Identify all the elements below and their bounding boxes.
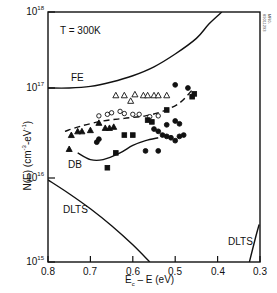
circle-filled-marker [156, 129, 161, 134]
plot-frame [48, 12, 260, 262]
plot-area [0, 0, 277, 293]
x-axis-label: Ec – E (eV) [125, 274, 174, 287]
circle-filled-marker [177, 121, 182, 126]
circle-filled-marker [94, 140, 99, 145]
circle-open-marker [97, 114, 101, 118]
circle-open-marker [131, 112, 135, 116]
curves [48, 12, 259, 262]
dlts-left-label: DLTS [63, 204, 88, 215]
square-filled-marker [192, 92, 197, 97]
circle-open-marker [122, 111, 126, 115]
triangle-open-marker [113, 92, 119, 98]
x-tick-0.3: 0.3 [245, 266, 275, 277]
triangle-filled-marker [68, 132, 74, 138]
circle-filled-marker [186, 86, 191, 91]
x-tick-0.4: 0.4 [203, 266, 233, 277]
y-tick-1e18: 1018 [4, 5, 44, 17]
triangle-filled-marker [79, 128, 85, 134]
axis-ticks [48, 12, 260, 262]
x-tick-0.8: 0.8 [33, 266, 63, 277]
figure-id: MR0-89011293 [262, 14, 272, 32]
circle-filled-marker [173, 138, 178, 143]
circle-open-marker [118, 109, 122, 113]
fe-curve-label: FE [71, 72, 84, 83]
triangle-filled-marker [87, 127, 93, 133]
circle-filled-marker [156, 149, 161, 154]
triangle-open-marker [128, 98, 134, 104]
circle-filled-marker [181, 133, 186, 138]
circle-filled-marker [164, 122, 169, 127]
square-filled-marker [150, 120, 155, 125]
db-curve-label: DB [68, 159, 82, 170]
square-filled-marker [105, 165, 110, 170]
triangle-open-marker [145, 92, 151, 98]
square-filled-marker [122, 133, 127, 138]
triangle-open-marker [132, 91, 138, 97]
circle-open-marker [105, 112, 109, 116]
y-tick-1e17: 1017 [4, 81, 44, 93]
triangle-filled-marker [111, 124, 117, 130]
dlts-right-label: DLTS [228, 236, 253, 247]
circle-filled-marker [173, 82, 178, 87]
square-filled-marker [114, 151, 119, 156]
triangle-open-marker [155, 92, 161, 98]
circle-filled-marker [143, 149, 148, 154]
square-filled-marker [131, 133, 136, 138]
square-filled-marker [164, 108, 169, 113]
temperature-annotation: T = 300K [60, 25, 101, 36]
dashed-fit-curve [65, 90, 192, 131]
triangle-filled-marker [66, 146, 72, 152]
x-tick-0.7: 0.7 [75, 266, 105, 277]
y-axis-label: N(E) (cm-3-eV-1) [21, 111, 32, 201]
triangle-open-marker [121, 92, 127, 98]
dlts-left-curve [48, 180, 150, 262]
circle-open-marker [156, 114, 160, 118]
triangle-open-marker [164, 92, 170, 98]
circle-open-marker [137, 112, 141, 116]
circle-open-marker [109, 111, 113, 115]
